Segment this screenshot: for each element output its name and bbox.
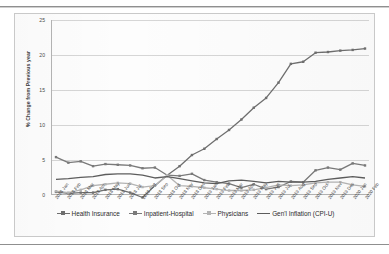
data-point	[104, 189, 106, 191]
data-point	[364, 47, 366, 49]
data-point	[277, 81, 279, 83]
data-point	[203, 179, 205, 181]
chart-container: % Change from Previous year 0510152025 2…	[14, 13, 375, 237]
data-point	[253, 107, 255, 109]
legend-item-2[interactable]: Physicians	[203, 210, 249, 217]
legend-label: Health Insurance	[72, 210, 120, 217]
data-point	[55, 156, 57, 158]
data-point	[314, 52, 316, 54]
data-point	[327, 51, 329, 53]
legend-item-1[interactable]: Inpatient-Hospital	[129, 210, 194, 217]
data-point	[129, 164, 131, 166]
y-tick-10: 10	[27, 122, 45, 128]
data-point	[215, 138, 217, 140]
page-bottom-rule	[0, 244, 389, 245]
data-point	[141, 167, 143, 169]
data-point	[265, 97, 267, 99]
data-point	[80, 189, 82, 191]
data-point	[339, 168, 341, 170]
data-point	[104, 163, 106, 165]
page-top-rule-shadow	[0, 7, 389, 8]
y-tick-25: 25	[27, 17, 45, 23]
legend-item-0[interactable]: Health Insurance	[57, 210, 120, 217]
plot-area-wrapper: % Change from Previous year 0510152025	[15, 14, 376, 202]
legend-label: Gen'l Inflation (CPI-U)	[272, 210, 334, 217]
data-point	[92, 165, 94, 167]
data-point	[191, 173, 193, 175]
legend-swatch-icon	[257, 210, 270, 217]
data-point	[240, 189, 242, 191]
y-tick-15: 15	[27, 87, 45, 93]
data-point	[117, 164, 119, 166]
data-point	[290, 63, 292, 65]
series-lines	[52, 20, 369, 194]
data-point	[314, 169, 316, 171]
data-point	[228, 189, 230, 191]
data-point	[178, 165, 180, 167]
data-point	[327, 166, 329, 168]
data-point	[191, 154, 193, 156]
legend-swatch-icon	[57, 210, 70, 217]
series-0	[55, 47, 366, 198]
legend-swatch-icon	[129, 210, 142, 217]
legend-swatch-icon	[203, 210, 216, 217]
plot-area	[51, 20, 369, 195]
y-tick-20: 20	[27, 52, 45, 58]
data-point	[351, 162, 353, 164]
data-point	[67, 161, 69, 163]
data-point	[240, 118, 242, 120]
legend-label: Physicians	[218, 210, 249, 217]
data-point	[154, 166, 156, 168]
data-point	[364, 164, 366, 166]
x-axis-tick-labels: 2018 Jan2018 Feb2018 Mar2018 Apr2018 May…	[51, 196, 369, 238]
data-point	[80, 160, 82, 162]
y-axis-tick-labels: 0510152025	[23, 14, 45, 202]
y-tick-0: 0	[27, 192, 45, 198]
data-point	[203, 148, 205, 150]
data-point	[302, 61, 304, 63]
data-point	[228, 129, 230, 131]
y-tick-5: 5	[27, 157, 45, 163]
data-point	[339, 49, 341, 51]
data-point	[178, 175, 180, 177]
legend-label: Inpatient-Hospital	[144, 210, 194, 217]
chart-legend: Health InsuranceInpatient-HospitalPhysic…	[15, 210, 376, 217]
data-point	[253, 189, 255, 191]
data-point	[351, 49, 353, 51]
legend-item-3[interactable]: Gen'l Inflation (CPI-U)	[257, 210, 334, 217]
